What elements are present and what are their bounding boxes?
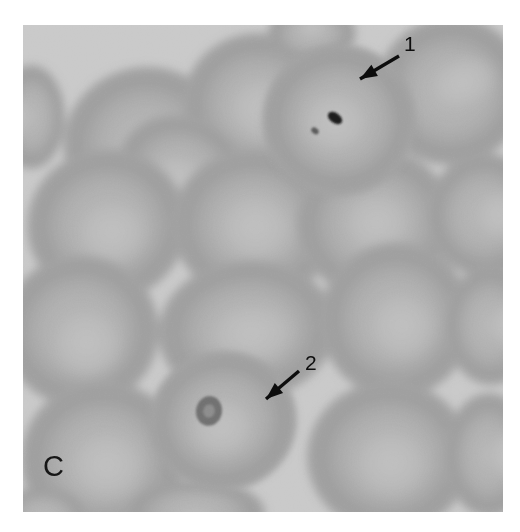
micrograph-canvas [23,25,503,512]
micrograph-image [23,25,503,512]
arrow-label-2: 2 [305,352,317,373]
arrow-label-1: 1 [404,33,416,54]
panel-letter: C [43,452,64,481]
film-grain-overlay [23,25,503,512]
figure-panel: C 1 2 [0,0,520,532]
